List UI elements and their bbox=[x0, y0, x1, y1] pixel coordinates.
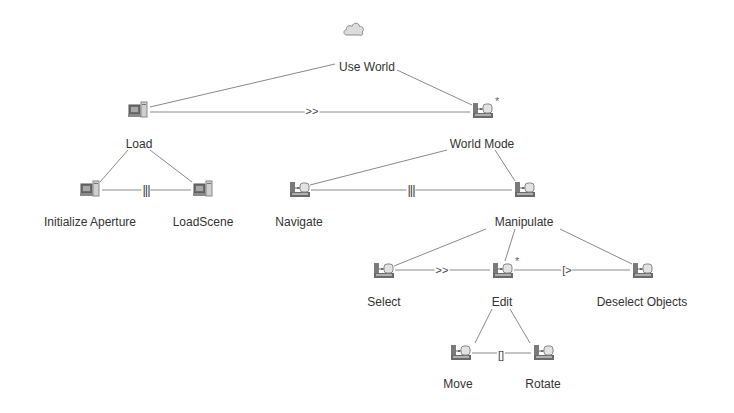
task-model-diagram: Use WorldLoad*World ModeInitialize Apert… bbox=[0, 0, 734, 413]
interaction-icon[interactable] bbox=[449, 343, 471, 361]
operator-enabling: >> bbox=[435, 264, 450, 276]
interaction-icon[interactable] bbox=[372, 261, 394, 279]
task-label-deselect-objects: Deselect Objects bbox=[597, 295, 688, 309]
interaction-icon[interactable] bbox=[471, 101, 493, 119]
task-label-edit: Edit bbox=[492, 295, 513, 309]
iteration-marker: * bbox=[515, 256, 519, 266]
task-label-move: Move bbox=[443, 377, 472, 391]
parent-edge bbox=[510, 309, 530, 343]
computer-icon[interactable] bbox=[79, 180, 101, 198]
interaction-icon[interactable] bbox=[491, 261, 513, 279]
task-label-manipulate: Manipulate bbox=[495, 215, 554, 229]
parent-edge bbox=[505, 229, 515, 261]
computer-icon[interactable] bbox=[127, 101, 149, 119]
operator-deactivation: [> bbox=[561, 264, 572, 276]
interaction-icon[interactable] bbox=[532, 343, 554, 361]
interaction-icon[interactable] bbox=[631, 261, 653, 279]
task-label-select: Select bbox=[367, 295, 400, 309]
interaction-icon[interactable] bbox=[513, 180, 535, 198]
interaction-icon[interactable] bbox=[288, 180, 310, 198]
parent-edge bbox=[150, 150, 192, 182]
parent-edge bbox=[394, 229, 486, 266]
operator-interleaving: ||| bbox=[141, 184, 150, 196]
computer-icon[interactable] bbox=[192, 180, 214, 198]
operator-interleaving: ||| bbox=[406, 184, 415, 196]
parent-edge bbox=[150, 64, 335, 107]
operator-choice: [] bbox=[497, 349, 505, 361]
cloud-icon[interactable] bbox=[342, 19, 364, 37]
parent-edge bbox=[100, 150, 128, 182]
parent-edge bbox=[495, 150, 515, 181]
parent-edge bbox=[475, 309, 492, 343]
task-label-loadscene: LoadScene bbox=[173, 215, 234, 229]
iteration-marker: * bbox=[495, 96, 499, 106]
task-label-navigate: Navigate bbox=[275, 215, 322, 229]
parent-edge bbox=[560, 229, 632, 264]
task-label-load: Load bbox=[126, 137, 153, 151]
parent-edge bbox=[397, 70, 472, 105]
task-label-use-world: Use World bbox=[339, 60, 395, 74]
task-label-world-mode: World Mode bbox=[450, 137, 514, 151]
task-label-rotate: Rotate bbox=[525, 377, 560, 391]
parent-edge bbox=[310, 150, 447, 185]
task-label-initialize-aperture: Initialize Aperture bbox=[44, 215, 136, 229]
operator-enabling: >> bbox=[305, 105, 320, 117]
